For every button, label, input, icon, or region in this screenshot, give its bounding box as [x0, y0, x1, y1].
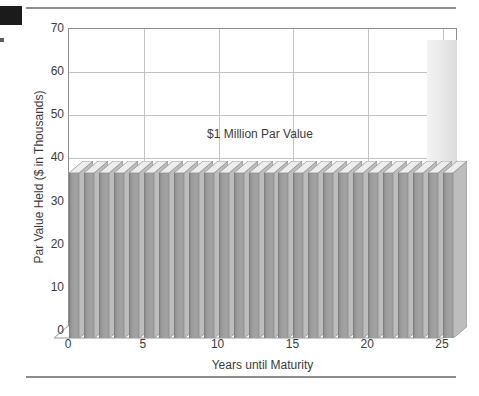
x-tick-label: 10	[203, 338, 233, 350]
gridline-horizontal	[69, 202, 456, 203]
plot-area	[68, 28, 457, 330]
x-tick-label: 0	[53, 338, 83, 350]
x-tick-label: 15	[277, 338, 307, 350]
gridline-vertical	[219, 29, 220, 329]
x-tick-label: 5	[128, 338, 158, 350]
x-axis-title: Years until Maturity	[68, 358, 457, 372]
gridline-vertical	[443, 29, 444, 329]
gridline-vertical	[368, 29, 369, 329]
x-tick-label: 20	[352, 338, 382, 350]
gridline-horizontal	[69, 72, 456, 73]
gridline-horizontal	[69, 288, 456, 289]
gridline-horizontal	[69, 158, 456, 159]
gridline-vertical	[144, 29, 145, 329]
bar-chart-figure: 010203040506070 $1 Million Par Value Yea…	[0, 0, 479, 396]
y-tick-label: 0	[38, 324, 64, 336]
gridline-horizontal	[69, 115, 456, 116]
rule-bottom	[26, 376, 456, 378]
gridline-vertical	[293, 29, 294, 329]
gridline-horizontal	[69, 245, 456, 246]
x-tick-label: 25	[427, 338, 457, 350]
y-axis-title: Par Value Held ($ in Thousands)	[32, 52, 46, 302]
y-tick-label: 70	[38, 22, 64, 34]
chart-annotation-par-value: $1 Million Par Value	[160, 127, 360, 141]
